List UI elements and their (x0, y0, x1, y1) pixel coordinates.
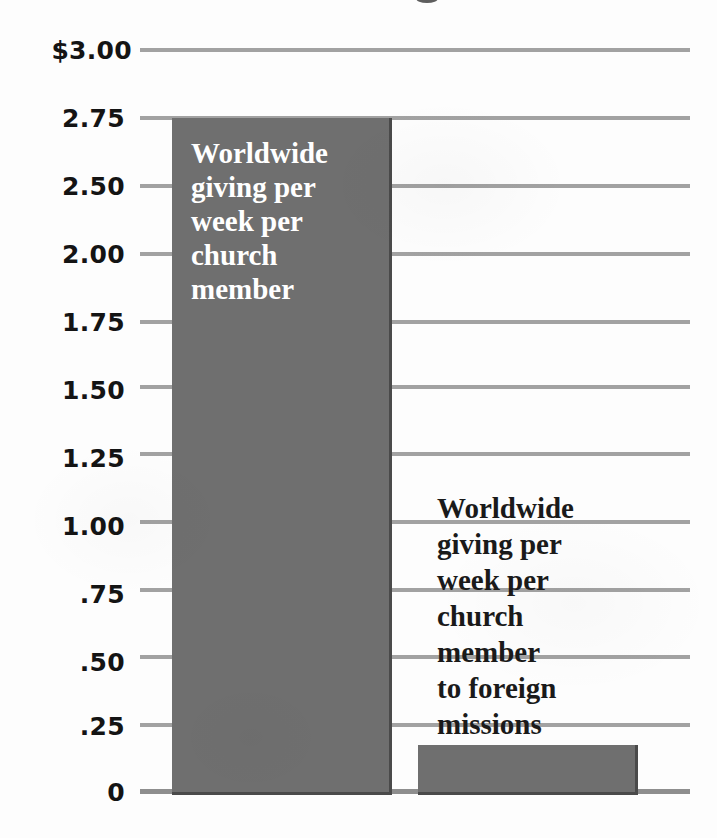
ytick-label-1-25: 1.25 (7, 444, 125, 473)
ytick-label-2-75: 2.75 (7, 104, 125, 133)
ytick-label-0: 0 (7, 778, 125, 807)
chart-page: $3.00 2.75 2.50 2.00 1.75 1.50 1.25 1.00… (0, 0, 717, 838)
ytick-label-1-75: 1.75 (7, 308, 125, 337)
bar-label-worldwide-giving-total: Worldwide giving per week per church mem… (191, 136, 381, 306)
bar-worldwide-giving-foreign-missions[interactable] (418, 745, 638, 795)
ytick-label-0-75: .75 (7, 580, 125, 609)
ytick-label-2-50: 2.50 (7, 172, 125, 201)
gridline-3-00 (140, 48, 690, 52)
ytick-label-0-50: .50 (7, 648, 125, 677)
bar-label-worldwide-giving-foreign-missions: Worldwide giving per week per church mem… (437, 490, 652, 742)
ytick-label-1-50: 1.50 (7, 376, 125, 405)
ytick-label-3-00: $3.00 (14, 36, 132, 65)
ytick-label-2-00: 2.00 (7, 240, 125, 269)
ytick-label-0-25: .25 (7, 712, 125, 741)
ytick-label-1-00: 1.00 (7, 512, 125, 541)
bar-chart-plot-area: $3.00 2.75 2.50 2.00 1.75 1.50 1.25 1.00… (0, 0, 717, 838)
